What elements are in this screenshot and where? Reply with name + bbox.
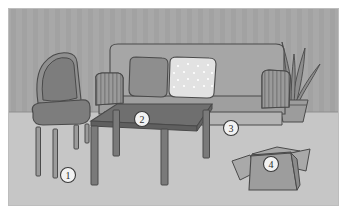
throw-pillow-polka-dot (169, 57, 216, 98)
callout-1-circle (61, 168, 76, 183)
sofa-arm-left (94, 70, 126, 108)
table-leg-front-left (91, 126, 98, 185)
sofa-arm-left-ribs (94, 70, 126, 108)
callout-1[interactable]: 1 (61, 168, 76, 183)
chair-seat (32, 100, 90, 125)
callout-2-circle (135, 112, 150, 127)
callout-4-circle (264, 157, 279, 172)
callout-2[interactable]: 2 (135, 112, 150, 127)
callout-3-circle (224, 121, 239, 136)
table-leg-back-right (203, 110, 210, 158)
living-room-illustration: 1 2 3 4 (0, 0, 347, 214)
table-leg-front-right (161, 129, 168, 185)
sofa-arm-right (260, 66, 294, 112)
throw-pillow-plain (129, 57, 168, 97)
illustration-frame: 1 2 3 4 (0, 0, 347, 214)
callout-3[interactable]: 3 (224, 121, 239, 136)
callout-4[interactable]: 4 (264, 157, 279, 172)
table-leg-back-left (113, 110, 120, 156)
